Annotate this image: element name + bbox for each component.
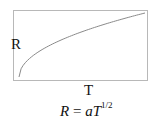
- equation-exponent: 1/2: [101, 100, 113, 110]
- x-axis-label: T: [84, 82, 93, 99]
- equation-equals: =: [69, 103, 85, 119]
- equation-variable: T: [93, 103, 101, 119]
- equation-coefficient: a: [85, 103, 93, 119]
- equation-caption: R = aT1/2: [60, 102, 113, 120]
- equation-lhs: R: [60, 103, 69, 119]
- plot-frame: [14, 11, 148, 81]
- sqrt-curve: [19, 13, 145, 77]
- y-axis-label: R: [11, 36, 21, 53]
